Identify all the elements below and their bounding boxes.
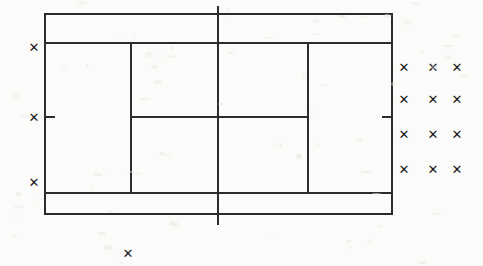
- scan-speck: [166, 55, 176, 58]
- scan-speck: [12, 233, 17, 237]
- tennis-court-diagram: ✕✕✕✕✕✕✕✕✕✕✕✕✕✕✕✕: [0, 0, 483, 266]
- scan-speck: [361, 171, 371, 173]
- right-cluster-mark-icon: ✕: [399, 93, 410, 106]
- scan-speck: [225, 8, 232, 11]
- left-sideline-mark-icon: ✕: [29, 176, 40, 189]
- scan-speck: [78, 1, 86, 5]
- scan-speck: [132, 172, 140, 174]
- right-cluster-mark-icon: ✕: [428, 163, 439, 176]
- right-cluster-mark-icon: ✕: [428, 93, 439, 106]
- scan-speck: [403, 20, 411, 25]
- right-cluster-mark-icon: ✕: [399, 128, 410, 141]
- scan-speck: [13, 94, 19, 97]
- scan-speck: [275, 143, 277, 146]
- scan-speck: [108, 210, 114, 213]
- scan-speck: [338, 15, 347, 18]
- right-cluster-mark-icon: ✕: [399, 163, 410, 176]
- scan-speck: [170, 46, 173, 49]
- right-cluster-mark-icon: ✕: [452, 61, 463, 74]
- scan-speck: [140, 98, 151, 100]
- left-sideline-mark-icon: ✕: [29, 41, 40, 54]
- scan-speck: [164, 154, 171, 156]
- bottom-mark-icon: ✕: [123, 247, 134, 260]
- right-cluster-mark-icon: ✕: [399, 61, 410, 74]
- scan-speck: [33, 199, 35, 202]
- scan-speck: [86, 64, 88, 67]
- court-lines-svg: [0, 0, 483, 266]
- scan-speck: [460, 73, 468, 77]
- scan-speck: [151, 65, 158, 69]
- scan-speck: [14, 205, 24, 207]
- scan-speck: [169, 222, 178, 226]
- scan-speck: [367, 240, 372, 243]
- scan-speck: [218, 103, 224, 105]
- scan-speck: [442, 45, 452, 47]
- scan-speck: [153, 80, 162, 84]
- right-cluster-mark-icon: ✕: [428, 128, 439, 141]
- scan-speck: [159, 152, 164, 155]
- scan-speck: [127, 171, 133, 173]
- scan-speck: [104, 245, 112, 250]
- scan-speck: [92, 188, 94, 191]
- scan-speck: [61, 68, 67, 70]
- scan-speck: [228, 52, 234, 53]
- right-cluster-mark-icon: ✕: [452, 163, 463, 176]
- scan-speck: [431, 66, 439, 69]
- scan-speck: [313, 19, 319, 23]
- right-cluster-mark-icon: ✕: [452, 93, 463, 106]
- scan-speck: [145, 52, 153, 57]
- scan-speck: [360, 16, 366, 18]
- scan-speck: [356, 139, 363, 143]
- scan-speck: [433, 213, 441, 214]
- scan-speck: [296, 154, 302, 159]
- scan-speck: [229, 16, 232, 17]
- right-cluster-mark-icon: ✕: [452, 128, 463, 141]
- scan-speck: [310, 110, 313, 115]
- scan-speck: [384, 14, 390, 18]
